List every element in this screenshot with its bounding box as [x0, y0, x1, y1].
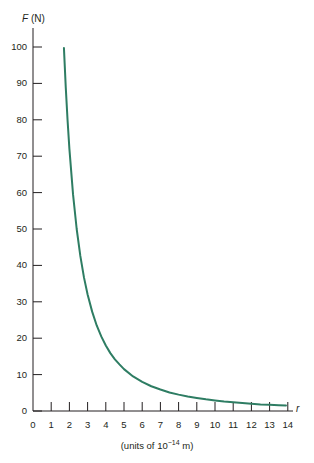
x-axis-tick-label: 5 — [121, 420, 126, 430]
y-axis-tick-marks — [33, 47, 42, 411]
y-axis-tick-label: 50 — [0, 224, 27, 234]
axis-lines — [33, 28, 293, 411]
x-axis-tick-label: 7 — [158, 420, 163, 430]
force-curve-line — [64, 48, 286, 405]
chart-plot-area — [0, 0, 314, 463]
y-axis-tick-label: 30 — [0, 297, 27, 307]
x-axis-title: r — [296, 404, 299, 414]
x-axis-units-text: (units of 10−14 m) — [121, 440, 194, 451]
x-axis-tick-label: 12 — [246, 420, 257, 430]
y-axis-symbol: F — [22, 13, 28, 24]
x-axis-tick-label: 14 — [283, 420, 294, 430]
y-axis-unit: (N) — [31, 13, 45, 24]
y-axis-tick-label: 40 — [0, 261, 27, 271]
x-axis-tick-label: 1 — [49, 420, 54, 430]
x-axis-tick-label: 10 — [210, 420, 221, 430]
y-axis-tick-label: 70 — [0, 151, 27, 161]
x-axis-tick-label: 8 — [176, 420, 181, 430]
x-axis-tick-label: 13 — [264, 420, 275, 430]
x-axis-tick-label: 4 — [103, 420, 108, 430]
x-axis-tick-label: 9 — [194, 420, 199, 430]
x-axis-tick-label: 11 — [228, 420, 238, 430]
y-axis-title: F (N) — [22, 14, 45, 24]
x-axis-units-caption: (units of 10−14 m) — [0, 441, 314, 451]
y-axis-tick-label: 80 — [0, 115, 27, 125]
y-axis-tick-label: 60 — [0, 188, 27, 198]
y-axis-tick-label: 10 — [0, 370, 27, 380]
x-axis-tick-label: 3 — [85, 420, 90, 430]
y-axis-tick-label: 90 — [0, 79, 27, 89]
x-axis-tick-label: 0 — [30, 420, 35, 430]
x-axis-tick-label: 6 — [140, 420, 145, 430]
x-axis-tick-label: 2 — [67, 420, 72, 430]
y-axis-tick-label: 0 — [0, 406, 27, 416]
x-axis-units-exponent: −14 — [168, 439, 180, 446]
y-axis-tick-label: 20 — [0, 333, 27, 343]
y-axis-tick-label: 100 — [0, 42, 27, 52]
force-vs-distance-chart: F (N) r (units of 10−14 m) 0102030405060… — [0, 0, 314, 463]
